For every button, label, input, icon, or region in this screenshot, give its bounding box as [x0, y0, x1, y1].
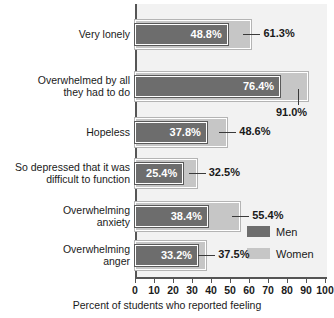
bar-value-men: 38.4%	[171, 210, 202, 222]
legend-swatch-women-icon	[247, 248, 270, 259]
x-tick-label: 50	[224, 284, 236, 296]
bar-men: 37.8%	[135, 122, 207, 143]
bar-men: 48.8%	[135, 24, 228, 45]
x-tick-label: 30	[186, 284, 198, 296]
bar-group: 48.8%	[135, 20, 334, 49]
bar-men: 33.2%	[135, 245, 198, 266]
legend-label-women: Women	[276, 248, 314, 260]
bar-group: 76.4%	[135, 72, 334, 101]
category-label: Overwhelming anxiety	[0, 204, 130, 229]
x-tick	[249, 278, 250, 283]
x-tick	[230, 278, 231, 283]
bar-value-women: 32.5%	[209, 166, 240, 178]
x-axis-title: Percent of students who reported feeling	[0, 299, 334, 311]
x-tick-label: 20	[167, 284, 179, 296]
bar-value-women: 55.4%	[252, 209, 283, 221]
bar-value-women: 48.6%	[239, 125, 270, 137]
category-label: Hopeless	[0, 126, 130, 139]
legend-item-men: Men	[247, 224, 297, 239]
value-leader-line	[243, 34, 260, 35]
x-tick	[268, 278, 269, 283]
category-label-wrap: Overwhelming anger	[0, 243, 131, 268]
bar-men: 76.4%	[135, 76, 280, 97]
bar-value-men: 76.4%	[243, 80, 274, 92]
bar-value-men: 48.8%	[191, 28, 222, 40]
category-label: Overwhelming anger	[0, 243, 130, 268]
x-tick-label: 90	[300, 284, 312, 296]
x-tick	[154, 278, 155, 283]
x-tick-label: 60	[243, 284, 255, 296]
legend-swatch-men-icon	[247, 226, 270, 237]
bar-men: 25.4%	[135, 163, 183, 184]
bar-value-men: 33.2%	[161, 249, 192, 261]
value-leader-line	[219, 132, 236, 133]
x-tick-label: 80	[281, 284, 293, 296]
x-tick-label: 10	[148, 284, 160, 296]
value-leader-line	[189, 173, 206, 174]
category-label: Very lonely	[0, 28, 130, 41]
bar-value-men: 25.4%	[146, 167, 177, 179]
x-tick	[135, 278, 136, 283]
category-label: Overwhelmed by all they had to do	[0, 74, 130, 99]
x-tick-label: 100	[316, 284, 334, 296]
bar-value-women: 61.3%	[263, 27, 294, 39]
bar-chart: 0102030405060708090100 Very lonelyOverwh…	[0, 0, 334, 318]
x-tick-label: 0	[132, 284, 138, 296]
category-label-wrap: Hopeless	[0, 126, 131, 139]
x-tick	[287, 278, 288, 283]
x-tick	[173, 278, 174, 283]
x-tick	[192, 278, 193, 283]
bar-value-women: 91.0%	[276, 106, 307, 118]
value-leader-line	[232, 216, 249, 217]
value-leader-line	[198, 255, 215, 256]
bar-men: 38.4%	[135, 206, 208, 227]
x-tick	[325, 278, 326, 283]
value-leader-line	[298, 89, 299, 105]
x-tick-label: 40	[205, 284, 217, 296]
legend-item-women: Women	[247, 246, 314, 261]
category-label: So depressed that it was difficult to fu…	[0, 161, 130, 186]
category-label-wrap: So depressed that it was difficult to fu…	[0, 161, 131, 186]
x-tick	[211, 278, 212, 283]
legend-label-men: Men	[276, 226, 297, 238]
bar-value-men: 37.8%	[170, 126, 201, 138]
bar-value-women: 37.5%	[218, 248, 249, 260]
category-label-wrap: Very lonely	[0, 28, 131, 41]
x-tick-label: 70	[262, 284, 274, 296]
category-label-wrap: Overwhelmed by all they had to do	[0, 74, 131, 99]
x-tick	[306, 278, 307, 283]
category-label-wrap: Overwhelming anxiety	[0, 204, 131, 229]
